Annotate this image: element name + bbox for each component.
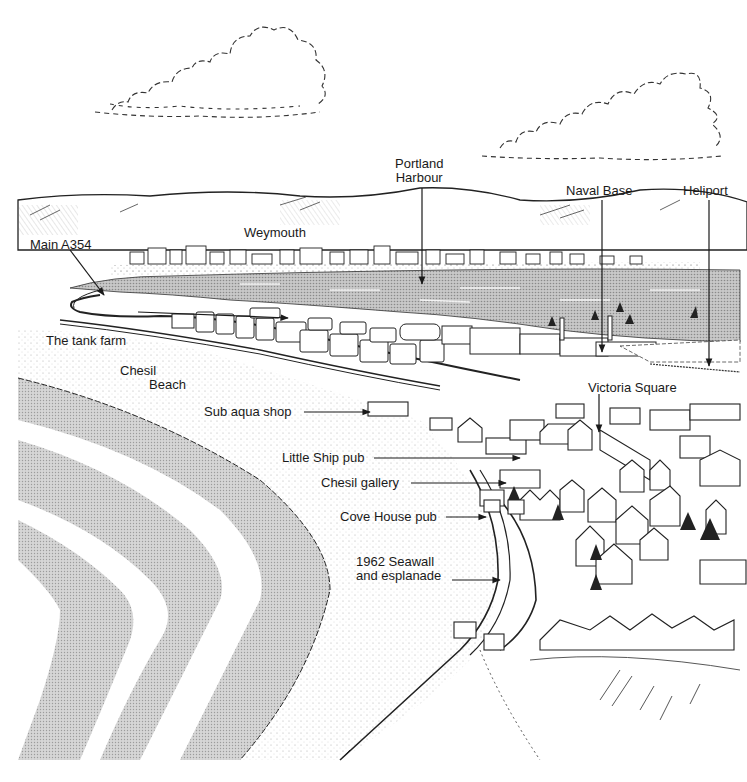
- label-weymouth: Weymouth: [244, 226, 306, 240]
- label-seawall-line1: 1962 Seawall: [356, 555, 441, 569]
- label-main-a354: Main A354: [30, 238, 91, 252]
- cloud-icon-right: [482, 73, 722, 159]
- lower-hill: [480, 650, 740, 760]
- label-tank-farm: The tank farm: [46, 334, 126, 348]
- cloud-icon-left: [95, 27, 325, 117]
- hills: [18, 188, 747, 250]
- label-seawall: 1962 Seawall and esplanade: [356, 555, 441, 583]
- label-cove-house-pub: Cove House pub: [340, 510, 437, 524]
- label-chesil-beach: Chesil Beach: [120, 364, 186, 392]
- label-naval-base: Naval Base: [566, 184, 632, 198]
- label-chesil-beach-line2: Beach: [120, 378, 186, 392]
- label-portland-harbour: Portland Harbour: [395, 157, 443, 185]
- label-portland-harbour-line1: Portland: [395, 157, 443, 171]
- label-chesil-beach-line1: Chesil: [120, 364, 186, 378]
- label-sub-aqua-shop: Sub aqua shop: [204, 405, 291, 419]
- label-portland-harbour-line2: Harbour: [395, 171, 443, 185]
- label-victoria-square: Victoria Square: [588, 381, 677, 395]
- label-heliport: Heliport: [683, 184, 728, 198]
- label-chesil-gallery: Chesil gallery: [321, 476, 399, 490]
- label-little-ship-pub: Little Ship pub: [282, 451, 364, 465]
- label-seawall-line2: and esplanade: [356, 569, 441, 583]
